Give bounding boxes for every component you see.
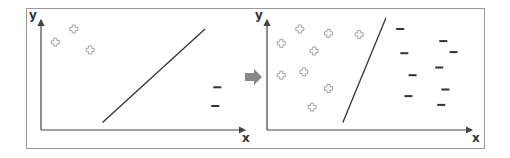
decision-boundary xyxy=(343,18,386,123)
diagram: y x y x xyxy=(0,0,510,158)
x-axis-label: x xyxy=(472,131,480,145)
positive-point xyxy=(300,68,308,76)
points xyxy=(51,25,221,123)
negative-point xyxy=(435,67,443,69)
y-axis-label: y xyxy=(255,8,263,22)
decision-boundary xyxy=(103,29,206,123)
positive-point xyxy=(310,47,318,55)
negative-point xyxy=(437,104,445,106)
negative-point xyxy=(450,51,458,53)
points xyxy=(277,18,457,123)
panel-before: y x xyxy=(29,8,250,145)
panel-after: y x xyxy=(255,8,480,145)
negative-point xyxy=(400,52,408,54)
negative-point xyxy=(213,86,221,88)
negative-point xyxy=(439,40,447,42)
positive-point xyxy=(277,39,285,47)
x-axis-label: x xyxy=(242,131,250,145)
right-arrow-icon xyxy=(245,69,262,85)
positive-point xyxy=(325,84,333,92)
positive-point xyxy=(277,71,285,79)
positive-point xyxy=(325,29,333,37)
negative-point xyxy=(441,89,449,91)
positive-point xyxy=(355,31,363,39)
positive-point xyxy=(86,46,94,54)
negative-point xyxy=(409,74,417,76)
negative-point xyxy=(396,28,404,30)
negative-point xyxy=(211,105,219,107)
positive-point xyxy=(308,103,316,111)
positive-point xyxy=(296,25,304,33)
y-axis-label: y xyxy=(29,8,37,22)
positive-point xyxy=(51,38,59,46)
negative-point xyxy=(404,95,412,97)
positive-point xyxy=(70,25,78,33)
